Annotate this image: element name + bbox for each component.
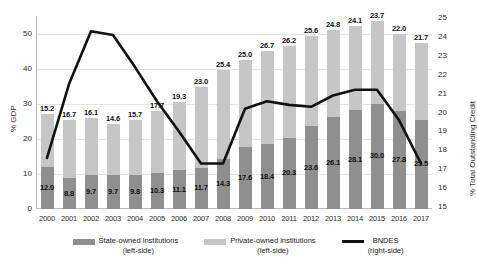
- bar-segment-private-owned: [415, 43, 428, 119]
- legend-label: BNDES(right-side): [368, 236, 404, 256]
- legend-item[interactable]: BNDES(right-side): [342, 236, 404, 256]
- bar-column: [107, 16, 120, 209]
- y-axis-left-title: % GDP: [9, 105, 18, 132]
- legend-label: State-owned institutions(left-side): [99, 236, 179, 256]
- bar-value-label-private-owned: 23.7: [364, 11, 390, 20]
- y-axis-right-tick-label: 23: [438, 51, 460, 60]
- bar-value-label-private-owned: 25.4: [210, 60, 236, 69]
- bar-segment-private-owned: [283, 46, 296, 138]
- y-axis-left-tick-label: 0: [8, 204, 32, 213]
- bar-column: [415, 16, 428, 209]
- bar-segment-private-owned: [173, 102, 186, 170]
- bar-segment-private-owned: [107, 124, 120, 175]
- bar-column: [151, 16, 164, 209]
- y-axis-left-tick-label: 30: [8, 99, 32, 108]
- bar-segment-private-owned: [63, 120, 76, 179]
- bar-value-label-state-owned: 25.5: [408, 159, 434, 168]
- bar-value-label-private-owned: 15.7: [122, 110, 148, 119]
- bar-column: [371, 16, 384, 209]
- legend-label: Private-owned institutions(left-side): [230, 236, 315, 256]
- bar-column: [393, 16, 406, 209]
- legend-sublabel: (left-side): [99, 246, 179, 256]
- bar-segment-private-owned: [85, 118, 98, 174]
- legend-bar-swatch-icon: [73, 239, 95, 245]
- y-axis-right-tick-label: 17: [438, 164, 460, 173]
- bar-segment-private-owned: [371, 21, 384, 104]
- bar-segment-private-owned: [305, 36, 318, 126]
- chart-legend: State-owned institutions(left-side)Priva…: [0, 236, 476, 256]
- bar-value-label-private-owned: 23.0: [188, 77, 214, 86]
- bar-segment-private-owned: [349, 26, 362, 111]
- y-axis-right-tick-label: 19: [438, 126, 460, 135]
- bar-segment-private-owned: [217, 70, 230, 159]
- bar-segment-private-owned: [41, 114, 54, 167]
- bar-column: [195, 16, 208, 209]
- bar-value-label-private-owned: 17.7: [144, 101, 170, 110]
- bar-column: [283, 16, 296, 209]
- y-axis-right-tick-label: 25: [438, 13, 460, 22]
- bar-value-label-private-owned: 25.0: [232, 50, 258, 59]
- bar-value-label-private-owned: 19.3: [166, 92, 192, 101]
- bar-segment-private-owned: [195, 87, 208, 168]
- bar-segment-private-owned: [239, 60, 252, 148]
- y-axis-right-title: % Total Outstanding Credit: [468, 101, 477, 196]
- bar-segment-private-owned: [393, 34, 406, 111]
- y-axis-right-tick-label: 20: [438, 108, 460, 117]
- y-axis-left-tick-label: 50: [8, 29, 32, 38]
- legend-sublabel: (right-side): [368, 246, 404, 256]
- y-axis-left-tick-label: 40: [8, 64, 32, 73]
- y-axis-right-tick-label: 15: [438, 202, 460, 211]
- bar-segment-private-owned: [151, 111, 164, 173]
- legend-sublabel: (left-side): [230, 246, 315, 256]
- bar-value-label-private-owned: 22.0: [386, 24, 412, 33]
- legend-item[interactable]: State-owned institutions(left-side): [73, 236, 179, 256]
- bar-segment-private-owned: [129, 120, 142, 175]
- bar-segment-private-owned: [327, 30, 340, 117]
- y-axis-right-tick-label: 22: [438, 70, 460, 79]
- bar-value-label-private-owned: 26.2: [276, 36, 302, 45]
- bar-column: [305, 16, 318, 209]
- legend-line-swatch-icon: [342, 240, 364, 243]
- bar-segment-private-owned: [261, 51, 274, 145]
- legend-bar-swatch-icon: [204, 239, 226, 245]
- y-axis-left-tick-label: 10: [8, 169, 32, 178]
- legend-item[interactable]: Private-owned institutions(left-side): [204, 236, 315, 256]
- y-axis-right-tick-label: 21: [438, 89, 460, 98]
- bar-column: [327, 16, 340, 209]
- bar-column: [173, 16, 186, 209]
- y-axis-right-tick-label: 24: [438, 32, 460, 41]
- x-axis-tick-label: 2017: [408, 214, 434, 223]
- y-axis-right-tick-label: 18: [438, 145, 460, 154]
- bar-value-label-private-owned: 21.7: [408, 33, 434, 42]
- bar-column: [349, 16, 362, 209]
- y-axis-right-tick-label: 16: [438, 183, 460, 192]
- y-axis-left-tick-label: 20: [8, 134, 32, 143]
